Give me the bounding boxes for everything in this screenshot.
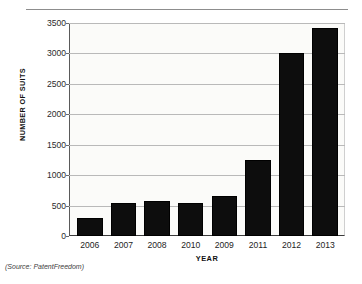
- chart-figure: NUMBER OF SUITS 050010001500200025003000…: [0, 0, 362, 284]
- y-tick-mark-1500: [66, 145, 70, 146]
- y-tick-label-1500: 1500: [20, 140, 66, 150]
- y-tick-label-500: 500: [20, 201, 66, 211]
- bar-slot: [107, 23, 141, 236]
- bar-2010: [178, 203, 204, 236]
- bar-2006: [77, 218, 103, 236]
- bar-2007: [111, 203, 137, 236]
- y-tick-mark-3000: [66, 53, 70, 54]
- y-tick-mark-2000: [66, 114, 70, 115]
- bar-2011: [245, 160, 271, 236]
- plot-area: [69, 23, 345, 236]
- bar-2009: [212, 196, 238, 236]
- x-tick-label-2013: 2013: [308, 240, 342, 254]
- x-axis-title: YEAR: [69, 254, 345, 263]
- x-tick-label-2010: 2010: [174, 240, 208, 254]
- top-divider-rule: [26, 9, 348, 10]
- x-tick-label-2006: 2006: [73, 240, 107, 254]
- bar-2008: [144, 201, 170, 236]
- x-tick-label-2008: 2008: [140, 240, 174, 254]
- bar-2012: [279, 53, 305, 236]
- bar-series: [69, 23, 345, 236]
- bar-slot: [73, 23, 107, 236]
- x-tick-label-2012: 2012: [275, 240, 309, 254]
- y-tick-label-2500: 2500: [20, 79, 66, 89]
- bar-slot: [275, 23, 309, 236]
- y-tick-mark-2500: [66, 84, 70, 85]
- bar-slot: [241, 23, 275, 236]
- x-tick-label-2011: 2011: [241, 240, 275, 254]
- y-tick-mark-500: [66, 206, 70, 207]
- y-tick-label-0: 0: [20, 231, 66, 241]
- y-tick-mark-1000: [66, 175, 70, 176]
- y-tick-label-1000: 1000: [20, 170, 66, 180]
- bar-slot: [308, 23, 342, 236]
- y-tick-mark-3500: [66, 23, 70, 24]
- bar-slot: [140, 23, 174, 236]
- y-tick-mark-0: [66, 236, 70, 237]
- gridline-0: [69, 236, 345, 237]
- source-caption: (Source: PatentFreedom): [5, 263, 84, 270]
- bar-2013: [312, 28, 338, 236]
- bar-slot: [174, 23, 208, 236]
- x-axis-tick-labels: 20062007200820102009201120122013: [69, 240, 345, 254]
- y-tick-label-3500: 3500: [20, 18, 66, 28]
- x-tick-label-2009: 2009: [208, 240, 242, 254]
- x-tick-label-2007: 2007: [107, 240, 141, 254]
- y-tick-label-2000: 2000: [20, 109, 66, 119]
- bar-slot: [208, 23, 242, 236]
- y-tick-label-3000: 3000: [20, 48, 66, 58]
